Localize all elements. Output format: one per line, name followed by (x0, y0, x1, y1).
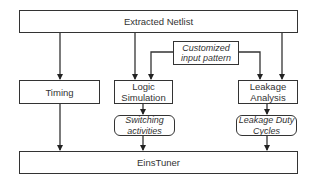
node-einstuner: EinsTuner (19, 151, 298, 174)
node-label-line1: Switching (125, 115, 164, 126)
node-label-line1: Logic (132, 81, 155, 92)
arrow-pattern-leakage (238, 52, 260, 79)
node-leakage-duty-cycles: Leakage Duty Cycles (236, 115, 297, 136)
node-label: Extracted Netlist (124, 16, 193, 27)
node-label: Timing (45, 87, 73, 98)
node-label-line2: activities (127, 126, 162, 137)
node-label-line1: Customized (182, 43, 230, 54)
node-extracted-netlist: Extracted Netlist (19, 10, 298, 33)
node-switching-activities: Switching activities (114, 115, 175, 136)
node-customized-input-pattern: Customized input pattern (173, 41, 239, 65)
node-leakage-analysis: Leakage Analysis (238, 80, 298, 104)
node-label-line2: Analysis (250, 92, 285, 103)
node-label-line1: Leakage Duty (239, 115, 295, 126)
node-label-line2: input pattern (181, 53, 231, 64)
arrow-pattern-logic (151, 52, 173, 79)
node-logic-simulation: Logic Simulation (114, 80, 173, 104)
node-label: EinsTuner (137, 157, 180, 168)
node-timing: Timing (19, 80, 100, 104)
node-label-line2: Simulation (121, 92, 165, 103)
node-label-line2: Cycles (253, 126, 280, 137)
node-label-line1: Leakage (250, 81, 286, 92)
